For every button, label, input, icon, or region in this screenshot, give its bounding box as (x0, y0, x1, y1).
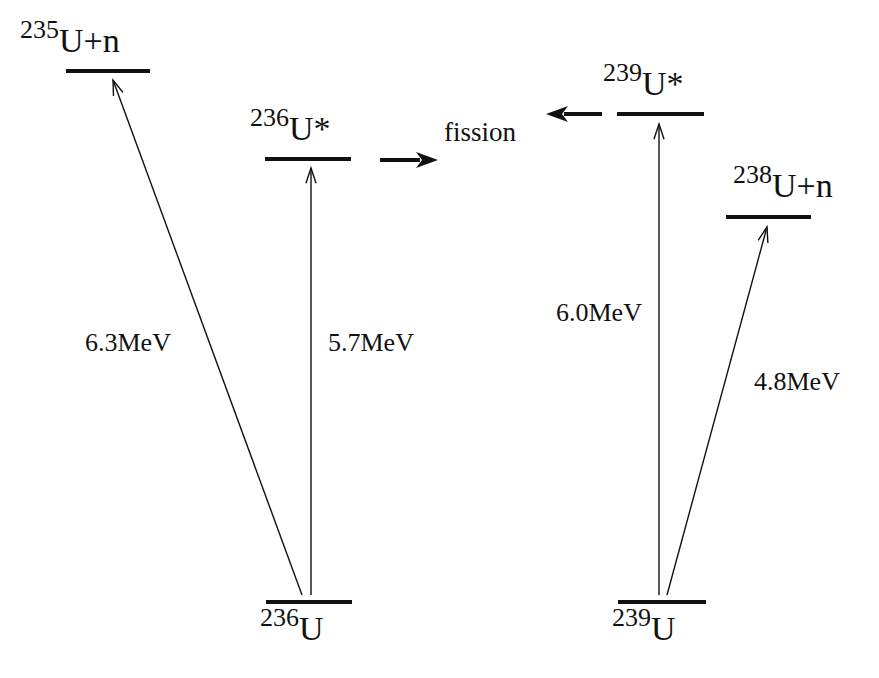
fission-label: fission (444, 117, 517, 147)
energy-level-u239: 239U (612, 602, 706, 647)
nuclide-symbol: U* (642, 65, 684, 102)
energy-level-u236star: 236U* (250, 103, 351, 159)
transitions-group: 6.3MeV5.7MeV6.0MeV4.8MeV (85, 80, 840, 595)
mass-number: 239 (612, 603, 651, 632)
level-label: 236U (260, 603, 324, 647)
energy-level-u238n: 238U+n (726, 160, 833, 217)
nuclide-symbol: U+n (772, 167, 833, 204)
level-label: 238U+n (733, 160, 833, 204)
mass-number: 239 (603, 58, 642, 87)
nuclide-symbol: U (299, 610, 324, 647)
transition-u239-to-u239star: 6.0MeV (556, 124, 664, 595)
level-label: 235U+n (20, 15, 120, 59)
nuclide-symbol: U (651, 610, 676, 647)
mass-number: 236 (250, 103, 289, 132)
energy-level-u236: 236U (260, 602, 352, 647)
energy-label: 5.7MeV (328, 328, 414, 357)
level-label: 239U* (603, 58, 684, 102)
energy-level-u235n: 235U+n (20, 15, 150, 71)
mass-number: 236 (260, 603, 299, 632)
mass-number: 238 (733, 160, 772, 189)
transition-u236-to-u236star: 5.7MeV (306, 168, 414, 595)
level-label: 236U* (250, 103, 331, 147)
transition-arrow (667, 227, 767, 595)
energy-label: 6.3MeV (85, 328, 171, 357)
energy-label: 6.0MeV (556, 298, 642, 327)
fission-group: fission (380, 106, 602, 168)
energy-label: 4.8MeV (754, 367, 840, 396)
fission-arrow-u239star (546, 106, 602, 122)
mass-number: 235 (20, 15, 59, 44)
energy-level-u239star: 239U* (603, 58, 704, 114)
energy-level-diagram: 6.3MeV5.7MeV6.0MeV4.8MeV 235U+n236U*236U… (0, 0, 879, 678)
fission-arrow-u236star (380, 152, 438, 168)
level-label: 239U (612, 603, 676, 647)
transition-u239-to-u238n: 4.8MeV (667, 227, 840, 595)
nuclide-symbol: U* (289, 110, 331, 147)
nuclide-symbol: U+n (59, 22, 120, 59)
